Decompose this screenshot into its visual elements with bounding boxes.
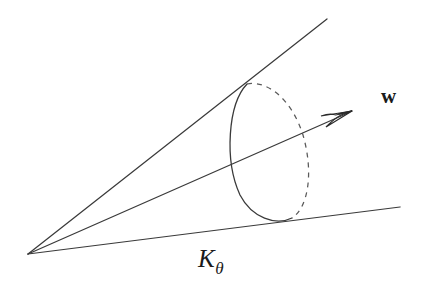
- figure-canvas: Kθ w: [0, 0, 425, 297]
- cross-section-dashed-arc: [247, 83, 309, 218]
- cross-section-solid-arc: [230, 84, 292, 221]
- vector-label: w: [381, 86, 396, 107]
- cone-label-subscript: θ: [215, 259, 223, 278]
- vector-arrowhead: [321, 111, 352, 127]
- cone-edges: [28, 19, 400, 254]
- cone-upper-edge-line: [28, 19, 327, 254]
- cone-label-symbol: K: [198, 245, 215, 272]
- cone-axis-line: [28, 113, 348, 254]
- cone-label: Kθ: [198, 246, 224, 277]
